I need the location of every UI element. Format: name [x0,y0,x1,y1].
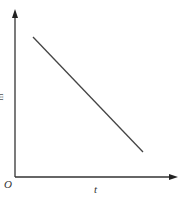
x-axis [15,174,178,180]
origin-label: O [4,178,12,190]
line-chart [0,0,184,204]
data-line [33,37,143,152]
y-axis [12,9,18,177]
x-axis-arrow-icon [169,174,178,180]
y-axis-arrow-icon [12,9,18,18]
y-axis-label: m [0,93,5,100]
x-axis-label: t [94,183,97,195]
